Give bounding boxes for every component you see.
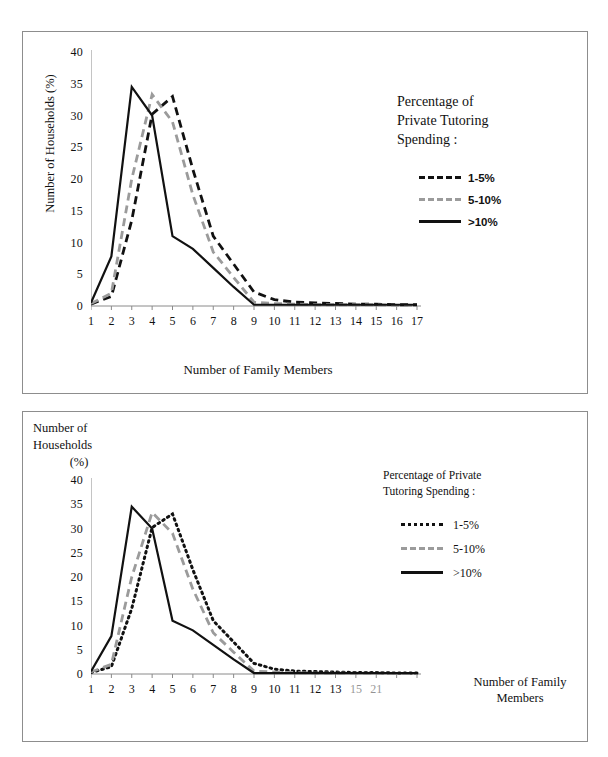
y-tick-label: 5 — [43, 268, 83, 280]
legend-label-gt-10: >10% — [453, 566, 482, 581]
y-tick-label: 15 — [43, 205, 83, 217]
legend-label-gt-10: >10% — [468, 216, 498, 228]
bottom-chart-y-axis-title: Number of Households (%) — [33, 420, 183, 471]
x-tick-label: 17 — [403, 315, 431, 327]
top-chart-svg — [91, 46, 421, 324]
bottom-chart-legend-rows: 1-5% 5-10% >10% — [383, 513, 583, 585]
y-title-line-3: (%) — [33, 454, 125, 471]
bottom-chart-legend: Percentage of Private Tutoring Spending … — [383, 467, 583, 585]
x-title-line-1: Number of Family — [473, 675, 566, 689]
legend-label-1-5: 1-5% — [453, 518, 479, 533]
y-tick-label: 30 — [43, 523, 83, 535]
top-chart-legend: Percentage of Private Tutoring Spending … — [397, 92, 577, 233]
y-tick-label: 40 — [43, 474, 83, 486]
y-tick-label: 5 — [43, 644, 83, 656]
legend-item-1-5[interactable]: 1-5% — [419, 167, 577, 189]
legend-title-line-2: Tutoring Spending : — [383, 485, 475, 497]
legend-label-5-10: 5-10% — [468, 194, 501, 206]
bottom-chart-legend-title: Percentage of Private Tutoring Spending … — [383, 467, 583, 499]
legend-item-1-5[interactable]: 1-5% — [401, 513, 583, 537]
y-tick-label: 25 — [43, 141, 83, 153]
series-line-5-10- — [91, 95, 417, 306]
y-tick-label: 15 — [43, 595, 83, 607]
series-line-1-5- — [91, 514, 417, 673]
bottom-chart-panel: Number of Households (%) Number of Famil… — [22, 411, 588, 742]
legend-label-5-10: 5-10% — [453, 542, 485, 557]
y-tick-label: 30 — [43, 110, 83, 122]
top-chart-panel: Number of Households (%) Number of Famil… — [22, 31, 588, 394]
figure-page: Number of Households (%) Number of Famil… — [0, 0, 608, 757]
series-line-5-10- — [91, 512, 417, 673]
top-chart-legend-title: Percentage of Private Tutoring Spending … — [397, 92, 577, 149]
top-chart-x-axis-title: Number of Family Members — [93, 362, 423, 378]
bottom-chart-x-axis-title: Number of Family Members — [455, 674, 585, 706]
x-title-line-2: Members — [496, 691, 543, 705]
y-tick-label: 20 — [43, 571, 83, 583]
series-line--10- — [91, 87, 417, 305]
series-line--10- — [91, 507, 417, 673]
y-tick-label: 10 — [43, 620, 83, 632]
y-title-line-1: Number of — [33, 420, 183, 437]
legend-item-5-10[interactable]: 5-10% — [419, 189, 577, 211]
y-tick-label: 25 — [43, 547, 83, 559]
bottom-chart-svg — [91, 474, 421, 692]
series-line-1-5- — [91, 96, 417, 304]
legend-label-1-5: 1-5% — [468, 172, 495, 184]
legend-title-line-2: Private Tutoring — [397, 113, 488, 128]
top-chart-plot-area — [91, 46, 421, 324]
y-tick-label: 40 — [43, 46, 83, 58]
legend-item-gt-10[interactable]: >10% — [401, 561, 583, 585]
legend-title-line-1: Percentage of — [397, 94, 474, 109]
legend-title-line-3: Spending : — [397, 132, 457, 147]
legend-item-gt-10[interactable]: >10% — [419, 211, 577, 233]
y-tick-label: 35 — [43, 78, 83, 90]
y-tick-label: 0 — [43, 300, 83, 312]
y-title-line-2: Households — [33, 437, 183, 454]
legend-title-line-1: Percentage of Private — [383, 469, 481, 481]
y-tick-label: 20 — [43, 173, 83, 185]
legend-item-5-10[interactable]: 5-10% — [401, 537, 583, 561]
top-chart-legend-rows: 1-5% 5-10% >10% — [397, 167, 577, 233]
bottom-chart-plot-area — [91, 474, 421, 692]
y-tick-label: 10 — [43, 237, 83, 249]
y-tick-label: 0 — [43, 668, 83, 680]
x-tick-label: 21 — [362, 683, 390, 695]
y-tick-label: 35 — [43, 498, 83, 510]
